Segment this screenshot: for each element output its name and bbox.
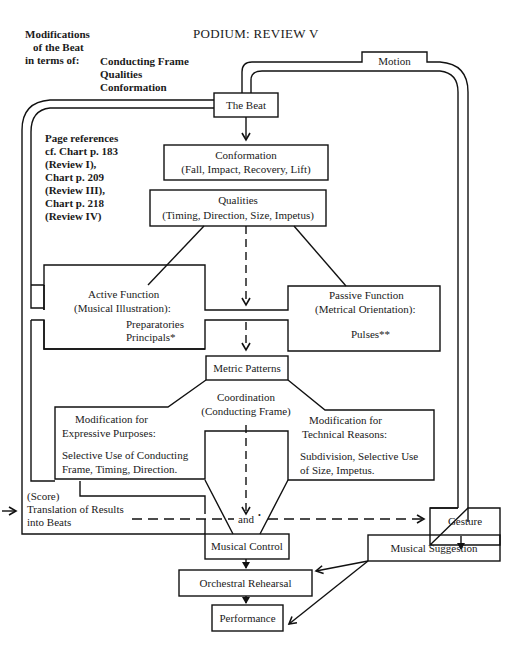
coordination-subtitle: (Conducting Frame) (196, 405, 296, 418)
page-title: PODIUM: REVIEW V (193, 27, 319, 40)
page-ref-6: (Review IV) (45, 210, 102, 223)
score-label: (Score) (27, 490, 59, 503)
qualities-detail: (Timing, Direction, Size, Impetus) (150, 209, 326, 222)
active-function-subtitle: (Musical Illustration): (74, 302, 171, 315)
page-ref-2: (Review I), (45, 158, 96, 171)
header-item-conformation: Conformation (100, 81, 167, 94)
node-orchestral-rehearsal: Orchestral Rehearsal (179, 577, 312, 590)
mod-technical-body2: of Size, Impetus. (300, 464, 375, 477)
passive-function-title: Passive Function (329, 289, 404, 302)
node-performance: Performance (212, 612, 283, 625)
header-left-line1: Modifications (25, 28, 90, 41)
node-the-beat: The Beat (214, 99, 278, 112)
page-ref-5: Chart p. 218 (45, 197, 104, 210)
node-gesture: Gesture (430, 515, 500, 528)
active-function-title: Active Function (88, 288, 159, 301)
passive-function-subtitle: (Metrical Orientation): (315, 303, 416, 316)
header-item-conducting-frame: Conducting Frame (100, 55, 189, 68)
mod-technical-title: Modification for (309, 414, 382, 427)
score-line2: into Beats (27, 516, 71, 529)
page-ref-3: Chart p. 209 (45, 171, 104, 184)
score-line1: Translation of Results (27, 503, 124, 516)
qualities-title: Qualities (150, 194, 326, 207)
page-ref-1: cf. Chart p. 183 (45, 145, 118, 158)
page-ref-0: Page references (45, 132, 118, 145)
and-label: and (238, 513, 254, 526)
mod-expressive-subtitle: Expressive Purposes: (62, 427, 156, 440)
mod-technical-subtitle: Technical Reasons: (302, 428, 387, 441)
header-item-qualities: Qualities (100, 68, 142, 81)
and-footnote-mark: • (258, 509, 261, 522)
node-metric-patterns: Metric Patterns (206, 362, 288, 375)
mod-expressive-body1: Selective Use of Conducting (62, 449, 188, 462)
node-musical-control: Musical Control (205, 540, 289, 553)
page-ref-4: (Review III), (45, 184, 105, 197)
mod-technical-body1: Subdivision, Selective Use (300, 450, 418, 463)
active-item-principals: Principals* (126, 331, 176, 344)
active-item-preparatories: Preparatories (126, 318, 184, 331)
conformation-title: Conformation (164, 149, 328, 162)
conformation-detail: (Fall, Impact, Recovery, Lift) (164, 163, 328, 176)
node-motion: Motion (362, 55, 427, 68)
mod-expressive-title: Modification for (75, 413, 148, 426)
node-musical-suggestion: Musical Suggestion (368, 542, 500, 555)
mod-expressive-body2: Frame, Timing, Direction. (62, 463, 177, 476)
header-left-line2: of the Beat (33, 41, 84, 54)
coordination-title: Coordination (200, 391, 292, 404)
passive-item-pulses: Pulses** (351, 328, 390, 341)
header-left-line3: in terms of: (25, 54, 79, 67)
